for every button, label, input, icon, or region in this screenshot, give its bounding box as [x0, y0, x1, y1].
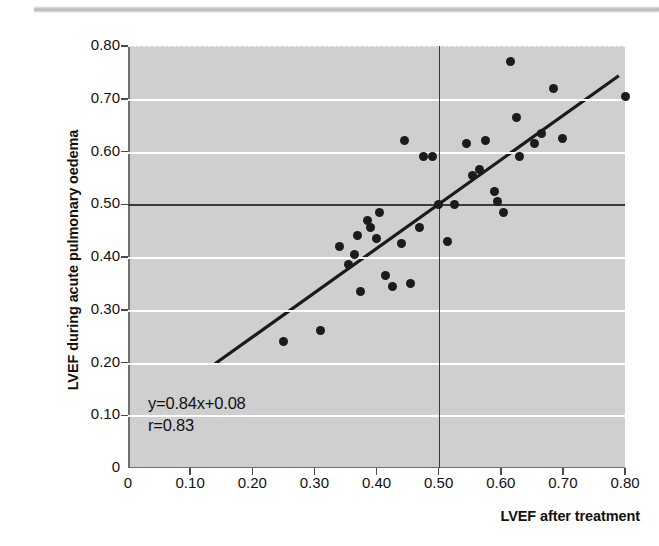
y-tick-mark — [121, 256, 128, 258]
gridline-y-0.6 — [128, 152, 625, 154]
regression-equation: y=0.84x+0.08 — [148, 393, 246, 415]
data-point — [621, 92, 630, 101]
gridline-y-0.8 — [128, 46, 625, 47]
data-point — [335, 242, 344, 251]
gridline-y-0.4 — [128, 257, 625, 259]
y-tick-text: 0.70 — [91, 89, 120, 106]
x-tick-mark — [314, 468, 316, 475]
x-tick-label: 0.20 — [238, 474, 267, 491]
data-point — [375, 208, 384, 217]
data-point — [279, 337, 288, 346]
x-tick-mark — [624, 468, 626, 475]
y-tick-text: 0.40 — [91, 247, 120, 264]
y-tick-text: 0.50 — [91, 194, 120, 211]
y-tick-text: 0.20 — [91, 353, 120, 370]
reference-line-vertical — [439, 46, 441, 468]
y-tick-text: 0 — [112, 458, 120, 475]
y-tick-mark — [121, 362, 128, 364]
y-tick-text: 0.60 — [91, 142, 120, 159]
data-point — [434, 200, 443, 209]
y-tick-mark — [121, 151, 128, 153]
x-tick-label: 0 — [124, 474, 132, 491]
x-tick-mark — [438, 468, 440, 475]
data-point — [490, 187, 499, 196]
y-tick-mark — [121, 98, 128, 100]
data-point — [450, 200, 459, 209]
reference-line-horizontal — [128, 204, 625, 206]
x-tick-label: 0.70 — [548, 474, 577, 491]
y-tick-text: 0.80 — [91, 36, 120, 53]
x-axis-title: LVEF after treatment — [0, 508, 640, 524]
decorative-top-rule — [34, 6, 659, 13]
regression-annotation: y=0.84x+0.08 r=0.83 — [148, 393, 246, 437]
y-tick-mark — [121, 415, 128, 417]
data-point — [475, 165, 484, 174]
x-tick-mark — [562, 468, 564, 475]
y-tick-mark — [121, 204, 128, 206]
correlation-coefficient: r=0.83 — [148, 415, 246, 437]
data-point — [406, 279, 415, 288]
y-tick-text: 0.30 — [91, 300, 120, 317]
data-point — [419, 152, 428, 161]
figure-container: LVEF during acute pulmonary oedema y=0.8… — [0, 0, 659, 546]
y-tick-mark — [121, 309, 128, 311]
data-point — [372, 234, 381, 243]
x-tick-label: 0.10 — [176, 474, 205, 491]
x-tick-mark — [376, 468, 378, 475]
y-tick-text: 0.10 — [91, 405, 120, 422]
x-tick-mark — [500, 468, 502, 475]
gridline-y-0.7 — [128, 99, 625, 101]
data-point — [499, 208, 508, 217]
x-tick-label: 0.40 — [362, 474, 391, 491]
x-tick-label: 0.80 — [610, 474, 639, 491]
x-tick-label: 0.50 — [424, 474, 453, 491]
x-tick-mark — [252, 468, 254, 475]
data-point — [512, 113, 521, 122]
gridline-y-0.2 — [128, 363, 625, 365]
data-point — [506, 57, 515, 66]
y-tick-mark — [121, 45, 128, 47]
x-tick-mark — [189, 468, 191, 475]
gridline-y-0.3 — [128, 310, 625, 312]
data-point — [537, 129, 546, 138]
x-tick-label: 0.60 — [486, 474, 515, 491]
data-point — [549, 84, 558, 93]
data-point — [388, 282, 397, 291]
y-axis-title: LVEF during acute pulmonary oedema — [65, 45, 81, 475]
x-tick-label: 0.30 — [300, 474, 329, 491]
